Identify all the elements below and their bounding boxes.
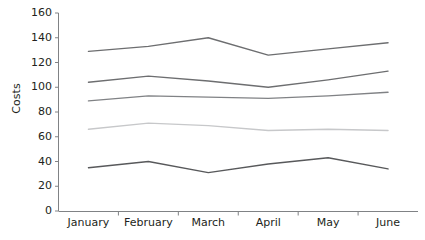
x-axis-tick-label: April	[256, 216, 281, 229]
x-axis-tick-label: June	[376, 216, 400, 229]
plot-area	[0, 0, 425, 240]
y-axis-ticks	[55, 13, 59, 211]
series-line-4	[88, 123, 388, 130]
series-line-2	[88, 71, 388, 87]
series-line-3	[88, 92, 388, 101]
x-axis-ticks	[118, 212, 358, 216]
x-axis-tick-label: May	[317, 216, 340, 229]
line-chart: Costs 020406080100120140160 JanuaryFebru…	[0, 0, 425, 240]
x-axis-tick-label: February	[124, 216, 173, 229]
x-axis-tick-label: January	[68, 216, 110, 229]
data-series-group	[88, 38, 388, 173]
series-line-1	[88, 38, 388, 55]
series-line-5	[88, 158, 388, 173]
x-axis-tick-label: March	[192, 216, 226, 229]
axis-lines	[59, 13, 419, 212]
